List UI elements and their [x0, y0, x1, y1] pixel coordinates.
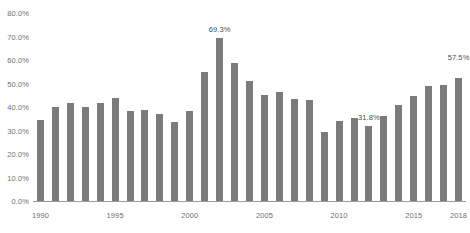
bar	[246, 81, 253, 201]
bar	[186, 111, 193, 201]
bar-value-label: 57.5%	[448, 53, 470, 62]
bar	[216, 38, 223, 201]
bar	[52, 107, 59, 201]
x-axis-tick-label: 2005	[256, 211, 273, 220]
bar	[291, 99, 298, 201]
bar	[37, 120, 44, 201]
bar	[231, 63, 238, 201]
y-axis-tick-label: 10.0%	[7, 173, 29, 182]
y-axis-tick-label: 0.0%	[12, 197, 30, 206]
bar	[455, 78, 462, 201]
plot-area: 69.3%31.8%57.5%	[33, 0, 466, 233]
bar	[141, 110, 148, 201]
y-axis: 80.0%70.0%60.0%50.0%40.0%30.0%20.0%10.0%…	[0, 0, 33, 233]
y-axis-tick-label: 70.0%	[7, 32, 29, 41]
x-axis-tick-label: 2010	[331, 211, 348, 220]
bar	[127, 111, 134, 201]
bar-value-label: 69.3%	[209, 25, 231, 34]
y-axis-tick-label: 50.0%	[7, 79, 29, 88]
bar	[380, 116, 387, 201]
bar	[201, 72, 208, 201]
bar-series	[33, 0, 466, 201]
bar	[276, 92, 283, 201]
bar-value-label: 31.8%	[358, 113, 380, 122]
y-axis-tick-label: 40.0%	[7, 103, 29, 112]
x-axis: 1990199520002005201020152018	[33, 204, 466, 233]
y-axis-tick-label: 20.0%	[7, 150, 29, 159]
bar	[156, 114, 163, 201]
bar	[67, 103, 74, 201]
x-axis-line	[33, 201, 466, 202]
y-axis-tick-label: 60.0%	[7, 56, 29, 65]
bar	[351, 118, 358, 201]
x-axis-tick-label: 2018	[450, 211, 467, 220]
y-axis-tick-label: 30.0%	[7, 126, 29, 135]
bar	[321, 132, 328, 201]
bar	[425, 86, 432, 201]
bar	[82, 107, 89, 201]
x-axis-tick-label: 2000	[181, 211, 198, 220]
bar	[171, 122, 178, 201]
bar	[395, 105, 402, 201]
bar	[261, 95, 268, 201]
y-axis-tick-label: 80.0%	[7, 9, 29, 18]
bar	[97, 103, 104, 201]
x-axis-tick-label: 1995	[107, 211, 124, 220]
bar-chart: 80.0%70.0%60.0%50.0%40.0%30.0%20.0%10.0%…	[0, 0, 470, 233]
bar	[306, 100, 313, 201]
bar	[336, 121, 343, 201]
bar	[440, 85, 447, 201]
x-axis-tick-label: 2015	[405, 211, 422, 220]
bar	[365, 126, 372, 201]
x-axis-tick-label: 1990	[32, 211, 49, 220]
bar	[410, 96, 417, 201]
bar	[112, 98, 119, 201]
